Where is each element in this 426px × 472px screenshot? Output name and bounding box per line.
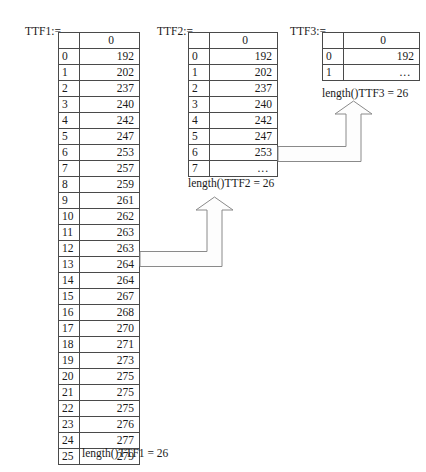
ttf1-caption: length()TTF1 = 26 (82, 447, 168, 460)
row-index-cell: 1 (59, 65, 80, 81)
table-row: 3240 (189, 97, 278, 113)
row-index-cell: 4 (59, 113, 80, 129)
row-index-cell: 2 (189, 81, 210, 97)
table-header-row: 0 (189, 33, 278, 49)
table-row: 12263 (59, 241, 140, 257)
row-index-cell: 3 (59, 97, 80, 113)
row-index-cell: 1 (189, 65, 210, 81)
diagram-canvas: TTF1:= 001921202223732404242524762537257… (0, 0, 426, 472)
table-row: 8259 (59, 177, 140, 193)
row-index-cell: 4 (189, 113, 210, 129)
row-index-cell: 14 (59, 273, 80, 289)
row-value-cell: ... (210, 161, 278, 177)
row-index-cell: 22 (59, 401, 80, 417)
table-row: 21275 (59, 385, 140, 401)
row-index-cell: 8 (59, 177, 80, 193)
row-value-cell: 263 (80, 225, 140, 241)
table-row: 5247 (189, 129, 278, 145)
row-value-cell: 264 (80, 273, 140, 289)
row-index-cell: 25 (59, 449, 80, 465)
row-value-cell: 275 (80, 401, 140, 417)
row-index-cell: 10 (59, 209, 80, 225)
row-value-cell: 192 (344, 49, 420, 65)
table-row: 2237 (189, 81, 278, 97)
column-header: 0 (344, 33, 420, 49)
table-row: 6253 (59, 145, 140, 161)
row-index-cell: 5 (189, 129, 210, 145)
row-index-cell: 21 (59, 385, 80, 401)
table-row: 7257 (59, 161, 140, 177)
row-index-cell: 5 (59, 129, 80, 145)
row-value-cell: 273 (80, 353, 140, 369)
row-value-cell: 237 (80, 81, 140, 97)
row-index-cell: 3 (189, 97, 210, 113)
row-value-cell: 253 (80, 145, 140, 161)
header-index-blank (189, 33, 210, 49)
row-index-cell: 7 (189, 161, 210, 177)
row-index-cell: 17 (59, 321, 80, 337)
row-value-cell: ... (344, 65, 420, 81)
row-value-cell: 275 (80, 369, 140, 385)
header-index-blank (59, 33, 80, 49)
table-row: 11263 (59, 225, 140, 241)
row-index-cell: 6 (189, 145, 210, 161)
row-index-cell: 0 (323, 49, 344, 65)
table-row: 6253 (189, 145, 278, 161)
row-value-cell: 202 (210, 65, 278, 81)
table-row: 20275 (59, 369, 140, 385)
row-index-cell: 2 (59, 81, 80, 97)
row-index-cell: 9 (59, 193, 80, 209)
table-row: 22275 (59, 401, 140, 417)
row-value-cell: 268 (80, 305, 140, 321)
row-index-cell: 18 (59, 337, 80, 353)
row-index-cell: 24 (59, 433, 80, 449)
row-value-cell: 247 (210, 129, 278, 145)
row-value-cell: 267 (80, 289, 140, 305)
row-index-cell: 1 (323, 65, 344, 81)
ttf2-caption: length()TTF2 = 26 (188, 177, 274, 190)
arrow-ttf1-to-ttf2 (140, 197, 233, 267)
table-row: 15267 (59, 289, 140, 305)
row-value-cell: 263 (80, 241, 140, 257)
table-row: 1... (323, 65, 420, 81)
row-value-cell: 271 (80, 337, 140, 353)
table-row: 13264 (59, 257, 140, 273)
row-index-cell: 6 (59, 145, 80, 161)
table-row: 16268 (59, 305, 140, 321)
table-row: 1202 (189, 65, 278, 81)
table-row: 4242 (189, 113, 278, 129)
row-value-cell: 259 (80, 177, 140, 193)
table-row: 4242 (59, 113, 140, 129)
row-value-cell: 270 (80, 321, 140, 337)
ttf3-caption: length()TTF3 = 26 (322, 87, 408, 100)
row-value-cell: 247 (80, 129, 140, 145)
column-header: 0 (210, 33, 278, 49)
row-value-cell: 261 (80, 193, 140, 209)
ttf2-table: 001921202223732404242524762537... (188, 32, 278, 177)
table-row: 0192 (189, 49, 278, 65)
table-row: 7... (189, 161, 278, 177)
table-row: 3240 (59, 97, 140, 113)
row-index-cell: 19 (59, 353, 80, 369)
row-value-cell: 242 (210, 113, 278, 129)
table-row: 5247 (59, 129, 140, 145)
table-row: 1202 (59, 65, 140, 81)
row-index-cell: 20 (59, 369, 80, 385)
row-value-cell: 253 (210, 145, 278, 161)
table-header-row: 0 (323, 33, 420, 49)
row-value-cell: 202 (80, 65, 140, 81)
table-row: 23276 (59, 417, 140, 433)
arrow-ttf2-to-ttf3 (278, 101, 372, 162)
column-header: 0 (80, 33, 140, 49)
row-index-cell: 7 (59, 161, 80, 177)
row-value-cell: 257 (80, 161, 140, 177)
table-row: 2237 (59, 81, 140, 97)
row-index-cell: 11 (59, 225, 80, 241)
table-row: 9261 (59, 193, 140, 209)
row-value-cell: 240 (210, 97, 278, 113)
row-index-cell: 0 (189, 49, 210, 65)
row-index-cell: 15 (59, 289, 80, 305)
ttf3-table: 001921... (322, 32, 420, 81)
row-index-cell: 13 (59, 257, 80, 273)
row-value-cell: 276 (80, 417, 140, 433)
